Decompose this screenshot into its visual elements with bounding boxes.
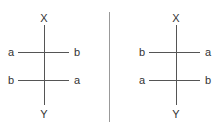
row-1-line — [18, 52, 69, 53]
row-1-left-label: b — [139, 47, 145, 58]
vertical-axis — [176, 25, 177, 105]
row-2-right-label: b — [205, 75, 211, 86]
bottom-label: Y — [172, 109, 179, 120]
row-2-left-label: b — [8, 75, 14, 86]
top-label: X — [172, 13, 179, 24]
top-label: X — [40, 13, 47, 24]
row-2-line — [149, 80, 200, 81]
row-1-right-label: a — [205, 47, 211, 58]
row-1-left-label: a — [8, 47, 14, 58]
bottom-label: Y — [40, 109, 47, 120]
row-1-line — [149, 52, 200, 53]
right-diagram: X Y b a a b — [110, 0, 219, 127]
row-2-line — [18, 80, 69, 81]
left-diagram: X Y a b b a — [0, 0, 109, 127]
row-1-right-label: b — [74, 47, 80, 58]
row-2-right-label: a — [74, 75, 80, 86]
row-2-left-label: a — [139, 75, 145, 86]
vertical-axis — [44, 25, 45, 105]
